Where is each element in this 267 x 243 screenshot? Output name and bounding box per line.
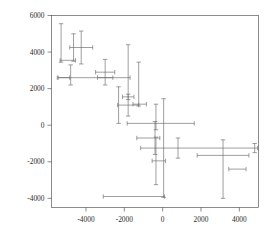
error-bar-point: [127, 121, 194, 125]
x-tick-label: -4000: [77, 215, 95, 224]
x-tick-label: 4000: [232, 215, 247, 224]
plot-canvas: -4000-2000020004000 -4000-20000200040006…: [0, 0, 267, 243]
error-bar-point: [118, 94, 139, 116]
y-tick-label: 4000: [30, 48, 45, 57]
y-tick-label: -4000: [27, 194, 45, 203]
y-tick-label: -2000: [27, 157, 45, 166]
error-bar-point: [229, 167, 246, 171]
x-axis-ticks: [86, 208, 239, 212]
axes-frame: [52, 16, 259, 208]
y-axis-ticks: [48, 16, 52, 199]
error-bar-point: [96, 59, 115, 85]
error-bar-series: [57, 24, 257, 199]
x-tick-label: -2000: [116, 215, 134, 224]
error-bar-point: [141, 146, 258, 150]
y-axis-tick-labels: -4000-20000200040006000: [27, 11, 45, 203]
x-tick-label: 0: [161, 215, 165, 224]
error-bar-point: [154, 104, 158, 130]
x-tick-label: 2000: [194, 215, 209, 224]
error-bar-point: [126, 45, 130, 100]
error-bar-point: [137, 136, 160, 140]
scatter-plot-figure: -4000-2000020004000 -4000-20000200040006…: [0, 0, 267, 243]
error-bar-point: [221, 140, 225, 199]
error-bar-point: [59, 24, 63, 62]
error-bar-point: [70, 31, 93, 64]
error-bar-point: [68, 65, 72, 85]
error-bar-point: [98, 75, 131, 79]
y-tick-label: 6000: [30, 11, 45, 20]
y-tick-label: 2000: [30, 84, 45, 93]
x-axis-tick-labels: -4000-2000020004000: [77, 215, 247, 224]
error-bar-point: [137, 62, 141, 106]
y-tick-label: 0: [41, 121, 45, 130]
error-bar-point: [103, 194, 164, 198]
